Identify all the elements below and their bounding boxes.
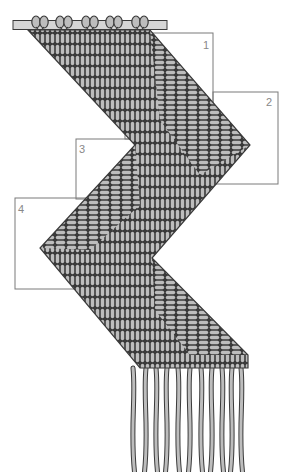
section-label-1: 1	[203, 40, 209, 51]
fringe-cords	[133, 368, 243, 472]
macrame-diagram	[0, 0, 283, 472]
section-label-3: 3	[79, 144, 85, 155]
section-label-4: 4	[18, 204, 24, 215]
section-label-2: 2	[266, 97, 272, 108]
